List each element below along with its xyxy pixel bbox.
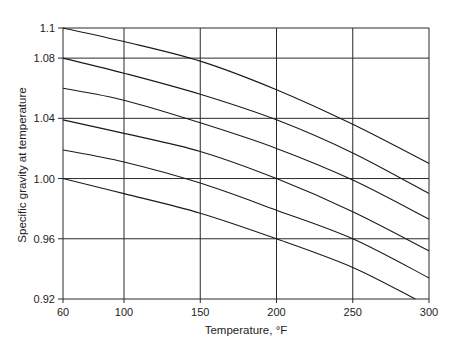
y-axis-title: Specific gravity at temperature [16,87,28,242]
chart: 60100150200250300 0.920.961.001.041.081.… [0,0,458,348]
x-tick-label: 60 [57,306,69,318]
y-tick-label: 0.96 [34,233,55,245]
y-axis-ticks: 0.920.961.001.041.081.1 [34,22,55,305]
series-line [63,58,429,194]
y-tick-label: 1.04 [34,112,55,124]
x-tick-label: 300 [420,306,438,318]
series-line [63,28,429,164]
x-axis-title: Temperature, °F [205,324,288,336]
x-tick-label: 200 [267,306,285,318]
x-tick-label: 100 [115,306,133,318]
y-tick-label: 1.00 [34,173,55,185]
curves [63,28,429,299]
y-tick-label: 1.08 [34,52,55,64]
y-tick-label: 1.1 [40,22,55,34]
x-tick-label: 150 [191,306,209,318]
x-axis-ticks: 60100150200250300 [57,306,438,318]
series-line [63,150,429,278]
x-tick-label: 250 [344,306,362,318]
series-line [63,88,429,219]
series-line [63,120,429,251]
y-tick-label: 0.92 [34,293,55,305]
